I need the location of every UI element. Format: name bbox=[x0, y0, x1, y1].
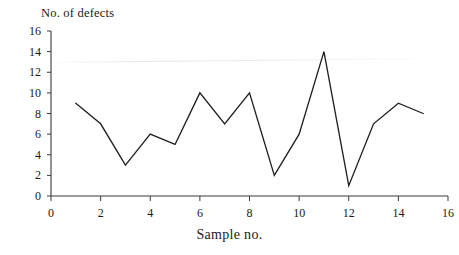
x-tick-label: 2 bbox=[89, 207, 113, 219]
axes bbox=[51, 31, 448, 196]
defects-data-line bbox=[76, 52, 423, 186]
x-axis-title: Sample no. bbox=[0, 227, 459, 243]
y-tick-label: 12 bbox=[17, 66, 41, 78]
x-tick-label: 6 bbox=[188, 207, 212, 219]
y-tick-label: 0 bbox=[17, 190, 41, 202]
y-tick-label: 4 bbox=[17, 149, 41, 161]
y-tick-label: 16 bbox=[17, 25, 41, 37]
y-tick-marks bbox=[47, 31, 51, 196]
x-tick-label: 12 bbox=[337, 207, 361, 219]
x-tick-label: 10 bbox=[287, 207, 311, 219]
x-tick-label: 4 bbox=[138, 207, 162, 219]
y-tick-label: 14 bbox=[17, 46, 41, 58]
x-tick-label: 14 bbox=[386, 207, 410, 219]
y-tick-label: 10 bbox=[17, 87, 41, 99]
defects-line-chart: No. of defects 0246810121416 02468101214… bbox=[0, 0, 459, 255]
y-tick-label: 8 bbox=[17, 108, 41, 120]
x-tick-label: 0 bbox=[39, 207, 63, 219]
x-tick-marks bbox=[51, 196, 448, 201]
x-tick-label: 16 bbox=[436, 207, 459, 219]
y-tick-label: 2 bbox=[17, 169, 41, 181]
x-tick-label: 8 bbox=[238, 207, 262, 219]
y-tick-label: 6 bbox=[17, 128, 41, 140]
